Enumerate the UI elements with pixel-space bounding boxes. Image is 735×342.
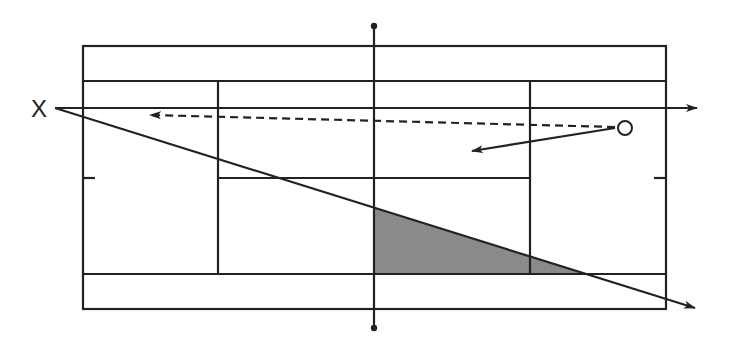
net-post-bottom-icon [371, 325, 377, 331]
dashed-shot-arrow [150, 115, 615, 127]
net-post-top-icon [371, 23, 377, 29]
short-shot-arrow [472, 128, 615, 151]
court-svg [0, 0, 735, 342]
player-x-label: X [31, 97, 47, 121]
tennis-court-diagram: X [0, 0, 735, 342]
player-o-icon [618, 121, 632, 135]
